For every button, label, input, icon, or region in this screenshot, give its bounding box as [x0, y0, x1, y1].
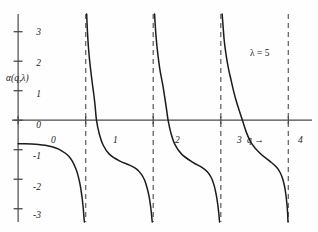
y-tick-label-3: 3 — [27, 28, 41, 38]
y-axis-title: α(q,λ) — [6, 74, 29, 84]
x-tick-label-4: 4 — [298, 136, 303, 146]
y-tick-label-0: 0 — [27, 121, 41, 131]
y-tick-label-minus-3: -3 — [22, 211, 41, 221]
chart-figure: 3 2 1 0 -1 -2 -3 α(q,λ) 0 1 2 3 4 q → λ … — [0, 0, 318, 232]
x-tick-label-3: 3 — [237, 136, 242, 146]
y-tick-label-1: 1 — [27, 90, 41, 100]
y-tick-label-2: 2 — [27, 59, 41, 69]
curve-branch-1 — [87, 14, 153, 222]
x-tick-label-2: 2 — [175, 136, 180, 146]
lambda-annotation: λ = 5 — [250, 49, 269, 59]
y-tick-label-minus-1: -1 — [22, 152, 41, 162]
plot-canvas — [0, 0, 318, 232]
curve-branch-3 — [222, 14, 288, 222]
x-tick-label-0: 0 — [51, 136, 56, 146]
asymptote-group — [86, 14, 289, 222]
axes-group — [12, 14, 312, 222]
curve-branch-2 — [155, 14, 220, 222]
y-tick-label-minus-2: -2 — [22, 183, 41, 193]
x-tick-label-1: 1 — [113, 136, 118, 146]
x-axis-arrow-label: q → — [247, 136, 264, 146]
